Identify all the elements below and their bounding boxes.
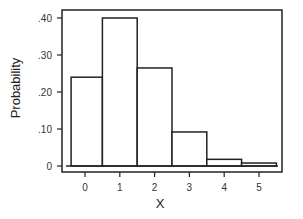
x-tick-label: 1 [117,182,123,193]
x-tick-label: 0 [82,182,88,193]
bar-x-0 [71,77,102,166]
y-tick-label: .10 [38,124,52,135]
x-tick-label: 5 [256,182,262,193]
bar-x-1 [102,18,137,166]
y-tick-label: 0 [46,161,52,172]
x-axis-title: X [156,196,165,211]
y-axis: 0.10.20.30.40 [38,13,62,172]
x-tick-label: 3 [187,182,193,193]
y-tick-label: .20 [38,87,52,98]
x-tick-label: 4 [221,182,227,193]
y-tick-label: .40 [38,13,52,24]
x-tick-label: 2 [152,182,158,193]
bars [66,18,278,166]
bar-x-2 [137,68,172,166]
y-tick-label: .30 [38,50,52,61]
y-axis-title: Probability [8,57,23,118]
probability-histogram: 0.10.20.30.40 012345 Probability X [0,0,303,219]
x-axis: 012345 [82,172,262,193]
bar-x-4 [207,159,242,166]
bar-x-3 [172,132,207,166]
